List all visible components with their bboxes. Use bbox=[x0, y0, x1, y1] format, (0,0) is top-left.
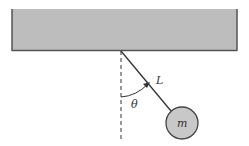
length-label: L bbox=[155, 74, 163, 87]
angle-arc bbox=[121, 82, 150, 97]
angle-label: θ bbox=[131, 98, 138, 111]
pendulum-rod bbox=[121, 51, 171, 111]
mass-label: m bbox=[177, 117, 187, 130]
pendulum-diagram: L θ m bbox=[0, 0, 249, 146]
ceiling-support bbox=[12, 9, 237, 51]
